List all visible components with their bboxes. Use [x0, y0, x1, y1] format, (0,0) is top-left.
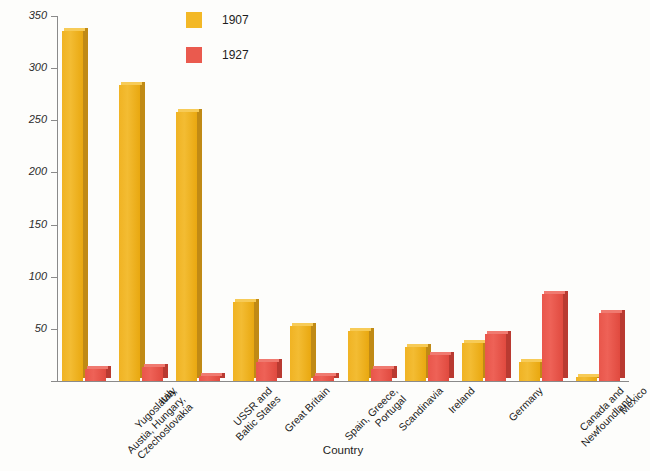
bar-face [542, 294, 563, 381]
bar-top [178, 109, 199, 112]
bar-1907-9 [576, 377, 597, 381]
bar-top [578, 374, 599, 377]
bar-top [258, 359, 279, 362]
bar-top [601, 310, 622, 313]
legend: 1907 1927 [186, 12, 249, 82]
bar-side [140, 82, 145, 378]
y-axis-tick [51, 68, 57, 69]
bar-top [201, 373, 222, 376]
bar-1927-3 [256, 362, 277, 381]
bar-face [348, 331, 369, 381]
y-axis-tick-label: 300 [9, 61, 47, 73]
y-axis-tick [51, 381, 57, 382]
bar-1907-7 [462, 343, 483, 381]
y-axis-tick [51, 225, 57, 226]
bar-face [462, 343, 483, 381]
bar-face [62, 31, 83, 381]
bar-top [487, 331, 508, 334]
bar-1907-6 [405, 347, 426, 381]
bar-1907-5 [348, 331, 369, 381]
x-axis-tick-label: Germany [507, 385, 546, 424]
x-axis-tick-label: Great Britain [282, 385, 332, 435]
y-axis-tick-label: 100 [9, 270, 47, 282]
bar-1927-8 [542, 294, 563, 381]
bar-top [144, 364, 165, 367]
bar-face [199, 376, 220, 381]
x-axis-tick-label: USSR and Baltic States [225, 385, 283, 443]
legend-swatch-1927 [186, 47, 202, 63]
bar-face [371, 369, 392, 382]
bar-face [119, 85, 140, 381]
legend-item[interactable]: 1927 [186, 47, 249, 63]
legend-swatch-1907 [186, 12, 202, 28]
x-axis-tick-label: Canada and Newfoundland [571, 385, 635, 449]
bar-top [373, 366, 394, 369]
bar-face [290, 326, 311, 381]
bar-top [121, 82, 142, 85]
bar-1927-9 [599, 313, 620, 381]
bar-face [428, 355, 449, 381]
bar-top [87, 366, 108, 369]
x-axis-line [57, 381, 629, 382]
bar-1907-8 [519, 362, 540, 381]
bar-face [176, 112, 197, 381]
bar-top [407, 344, 428, 347]
y-axis-tick [51, 120, 57, 121]
y-axis-tick-label: 350 [9, 9, 47, 21]
y-axis-tick-label: 50 [9, 322, 47, 334]
legend-label-1907: 1907 [222, 13, 249, 27]
x-axis-tick-label: Scandinavia [396, 385, 445, 434]
bar-1927-6 [428, 355, 449, 381]
bar-face [519, 362, 540, 381]
bar-side [311, 323, 316, 378]
bar-face [599, 313, 620, 381]
plot-area: 50100150200250300350 [57, 16, 629, 381]
bar-top [521, 359, 542, 362]
bar-1907-3 [233, 302, 254, 381]
bar-1927-0 [85, 369, 106, 382]
x-axis-tick-label: Ireland [446, 385, 477, 416]
y-axis-tick [51, 277, 57, 278]
bar-face [85, 369, 106, 382]
bar-1927-1 [142, 367, 163, 381]
legend-item[interactable]: 1907 [186, 12, 249, 28]
bar-side [197, 109, 202, 378]
bar-side [449, 352, 454, 378]
y-axis-tick [51, 16, 57, 17]
bar-top [64, 28, 85, 31]
bar-face [142, 367, 163, 381]
bar-top [430, 352, 451, 355]
bar-face [576, 377, 597, 381]
bar-1907-1 [119, 85, 140, 381]
y-axis-tick-label: 200 [9, 165, 47, 177]
bar-1907-4 [290, 326, 311, 381]
legend-label-1927: 1927 [222, 48, 249, 62]
bar-face [233, 302, 254, 381]
bar-1927-5 [371, 369, 392, 382]
bar-top [464, 340, 485, 343]
bar-1927-4 [313, 376, 334, 381]
y-axis-tick-label: 150 [9, 218, 47, 230]
bar-side [83, 28, 88, 378]
bar-top [544, 291, 565, 294]
bar-1907-0 [62, 31, 83, 381]
bar-face [485, 334, 506, 381]
bar-side [620, 310, 625, 378]
bar-top [292, 323, 313, 326]
y-axis-tick [51, 329, 57, 330]
bar-face [313, 376, 334, 381]
bar-face [256, 362, 277, 381]
y-axis-tick [51, 172, 57, 173]
bar-1927-2 [199, 376, 220, 381]
bar-side [506, 331, 511, 378]
bar-top [235, 299, 256, 302]
y-axis-tick-label: 250 [9, 113, 47, 125]
bar-top [350, 328, 371, 331]
x-axis-tick-label: Spain, Greece, Portugal [343, 385, 409, 451]
bar-side [563, 291, 568, 378]
bar-1927-7 [485, 334, 506, 381]
bar-1907-2 [176, 112, 197, 381]
bar-face [405, 347, 426, 381]
bar-top [315, 373, 336, 376]
